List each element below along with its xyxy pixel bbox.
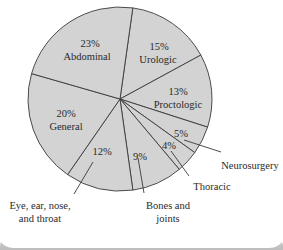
- label-proctologic-name: Proctologic: [154, 99, 203, 110]
- label-eent-name-line1: Eye, ear, nose,: [9, 200, 70, 211]
- label-general-name: General: [49, 121, 82, 132]
- label-urologic-name: Urologic: [139, 54, 177, 65]
- pie-chart: 23% Abdominal 15% Urologic 13% Proctolog…: [0, 0, 283, 250]
- label-thoracic-pct: 4%: [162, 140, 176, 151]
- label-bones-name-line1: Bones and: [146, 200, 191, 211]
- label-eent-pct: 12%: [92, 146, 112, 157]
- figure-frame: 23% Abdominal 15% Urologic 13% Proctolog…: [0, 0, 283, 250]
- label-eent-name-line2: and throat: [19, 213, 61, 224]
- label-thoracic-name: Thoracic: [193, 181, 231, 192]
- label-bones-name-line2: joints: [155, 213, 179, 224]
- label-abdominal-name: Abdominal: [63, 51, 110, 62]
- label-neurosurgery-name: Neurosurgery: [221, 160, 279, 171]
- label-general-pct: 20%: [56, 108, 76, 119]
- label-urologic-pct: 15%: [149, 41, 169, 52]
- label-bones-pct: 9%: [133, 151, 147, 162]
- label-proctologic-pct: 13%: [168, 86, 188, 97]
- label-abdominal-pct: 23%: [80, 38, 100, 49]
- label-neurosurgery-pct: 5%: [174, 128, 188, 139]
